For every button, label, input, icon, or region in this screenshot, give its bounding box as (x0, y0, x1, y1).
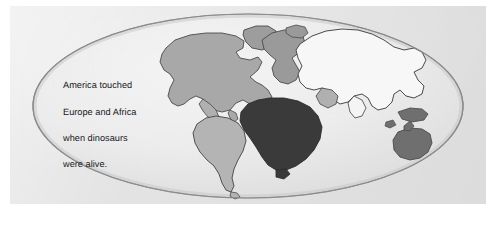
figure-root: America touched Europe and Africa when d… (0, 0, 496, 226)
caption-line-2: Europe and Africa (63, 106, 183, 119)
caption-line-4: were alive. (63, 158, 183, 171)
map-caption: America touched Europe and Africa when d… (63, 66, 183, 185)
caption-line-3: when dinosaurs (63, 132, 183, 145)
caption-line-1: America touched (63, 79, 183, 92)
